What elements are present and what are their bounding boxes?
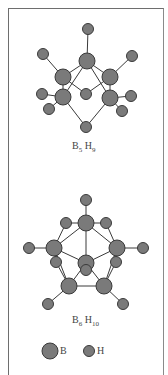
boron-atom-icon bbox=[102, 69, 118, 85]
molecule-b5h9 bbox=[37, 24, 138, 133]
legend-label-b: B bbox=[60, 345, 67, 356]
hydrogen-atom-icon bbox=[81, 265, 92, 276]
hydrogen-atom-icon bbox=[138, 243, 149, 254]
hydrogen-atom-icon bbox=[111, 257, 122, 268]
boron-atom-icon bbox=[55, 89, 71, 105]
hydrogen-atom-icon bbox=[44, 104, 55, 115]
hydrogen-atom-icon bbox=[61, 218, 72, 229]
hydrogen-atom-icon bbox=[118, 299, 129, 310]
boron-atom-icon bbox=[78, 215, 94, 231]
label-b6h10-h-count: 10 bbox=[92, 320, 99, 328]
boron-atom-icon bbox=[55, 69, 71, 85]
label-b6h10: B6 H10 bbox=[72, 314, 99, 328]
label-b5h9-h: H bbox=[85, 140, 92, 151]
hydrogen-atom-icon bbox=[101, 218, 112, 229]
hydrogen-atom-icon bbox=[37, 89, 48, 100]
boron-atom-icon bbox=[109, 240, 125, 256]
boron-atom-icon bbox=[79, 53, 95, 69]
boron-atom-icon bbox=[61, 278, 77, 294]
label-b5h9: B5 H9 bbox=[72, 140, 95, 154]
hydrogen-atom-icon bbox=[117, 106, 128, 117]
label-b5h9-b: B bbox=[72, 140, 79, 151]
hydrogen-atom-icon bbox=[43, 299, 54, 310]
boron-atom-icon bbox=[46, 240, 62, 256]
hydrogen-atom-icon bbox=[83, 24, 94, 35]
hydrogen-atom-icon bbox=[51, 257, 62, 268]
label-b5h9-b-count: 5 bbox=[79, 146, 83, 154]
molecule-b6h10 bbox=[24, 195, 149, 310]
hydrogen-atom-icon bbox=[127, 51, 138, 62]
hydrogen-atom-icon bbox=[81, 89, 92, 100]
hydrogen-atom-icon bbox=[38, 49, 49, 60]
label-b6h10-b: B bbox=[72, 314, 79, 325]
legend-label-h: H bbox=[97, 345, 104, 356]
label-b6h10-h: H bbox=[85, 314, 92, 325]
hydrogen-atom-icon bbox=[126, 91, 137, 102]
hydrogen-atom-icon bbox=[81, 122, 92, 133]
label-b5h9-h-count: 9 bbox=[92, 146, 96, 154]
boron-atom-icon bbox=[96, 278, 112, 294]
boron-atom-icon bbox=[102, 90, 118, 106]
hydrogen-atom-icon bbox=[24, 243, 35, 254]
hydrogen-atom-icon bbox=[81, 195, 92, 206]
label-b6h10-b-count: 6 bbox=[79, 320, 83, 328]
